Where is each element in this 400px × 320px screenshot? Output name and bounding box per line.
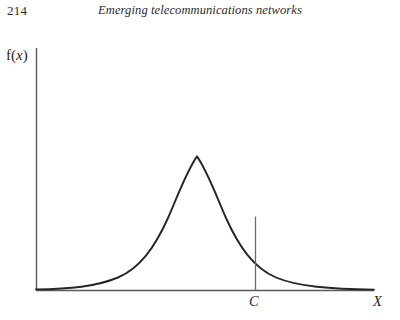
threshold-label-c: C — [249, 293, 259, 309]
y-axis-label: f(x) — [6, 47, 28, 64]
y-axis-label-paren: ) — [23, 47, 28, 64]
book-page: 214 Emerging telecommunications networks… — [0, 0, 400, 320]
x-axis-label: X — [372, 293, 383, 309]
figure-normal-distribution: f(x) C X — [0, 0, 400, 320]
y-axis-label-f: f( — [6, 47, 16, 64]
density-curve — [36, 156, 374, 289]
